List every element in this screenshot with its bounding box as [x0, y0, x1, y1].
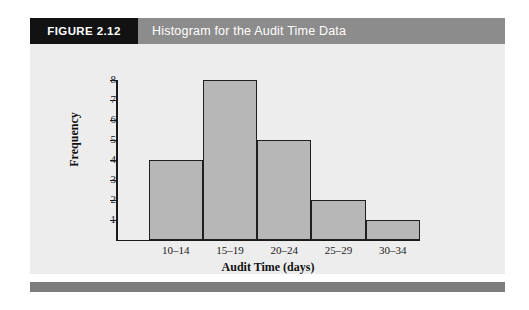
- y-axis-tick-label: 3: [102, 173, 116, 185]
- y-axis-tick-label: 8: [102, 73, 116, 85]
- y-axis-tick-label: 6: [102, 113, 116, 125]
- x-axis-tick-label: 20–24: [257, 244, 311, 256]
- figure-header-band: FIGURE 2.12 Histogram for the Audit Time…: [30, 18, 505, 44]
- y-axis-tick-label: 2: [102, 193, 116, 205]
- histogram-bar: [149, 160, 203, 240]
- x-axis-tick-label: 25–29: [311, 244, 365, 256]
- y-axis-title: Frequency: [67, 85, 82, 195]
- histogram-bar: [366, 220, 420, 240]
- y-axis-tick-label: 1: [102, 213, 116, 225]
- y-axis-tick-label: 5: [102, 133, 116, 145]
- figure-body-panel: 12345678 Frequency 10–1415–1920–2425–293…: [30, 44, 505, 274]
- figure-caption: Histogram for the Audit Time Data: [138, 18, 346, 44]
- x-axis-title: Audit Time (days): [116, 260, 420, 275]
- histogram-bar: [257, 140, 311, 240]
- histogram-bars: [116, 80, 420, 240]
- x-axis-tick-label: 30–34: [366, 244, 420, 256]
- figure-number-tab: FIGURE 2.12: [30, 18, 138, 44]
- x-axis-tick-label: 10–14: [149, 244, 203, 256]
- histogram-bar: [311, 200, 365, 240]
- histogram-plot: 12345678 Frequency 10–1415–1920–2425–293…: [30, 44, 505, 274]
- y-axis-tick-label: 7: [102, 93, 116, 105]
- x-axis-tick-label: 15–19: [203, 244, 257, 256]
- figure-footer-rule: [30, 282, 505, 292]
- histogram-bar: [203, 80, 257, 240]
- figure-screenshot: FIGURE 2.12 Histogram for the Audit Time…: [0, 0, 529, 310]
- y-axis-tick-label: 4: [102, 153, 116, 165]
